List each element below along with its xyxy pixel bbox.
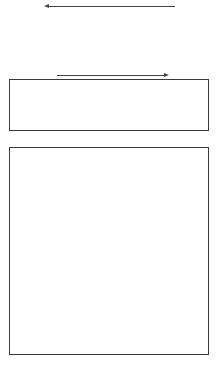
alternate-block-strip — [9, 79, 209, 131]
assembled-quilt-grid — [9, 147, 209, 355]
arrowhead-left-icon — [44, 4, 49, 8]
arrowhead-right-icon — [164, 73, 169, 77]
middle-arrow — [57, 75, 165, 76]
top-arrow — [48, 6, 175, 7]
